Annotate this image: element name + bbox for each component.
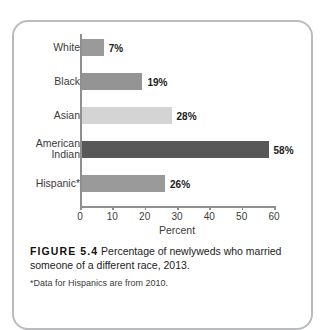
x-axis-title: Percent xyxy=(80,224,274,236)
category-label-asian: Asian xyxy=(0,110,80,121)
x-tick-0 xyxy=(80,206,82,210)
bar-american-indian[interactable] xyxy=(81,141,269,158)
bar-row-asian: 28% xyxy=(81,107,172,124)
bar-row-black: 19% xyxy=(81,73,142,90)
bar-value-american-indian: 58% xyxy=(269,144,294,155)
x-tick-label-30: 30 xyxy=(171,211,182,222)
x-tick-label-60: 60 xyxy=(268,211,279,222)
bar-row-hispanic: 26% xyxy=(81,175,165,192)
bar-value-hispanic: 26% xyxy=(165,178,190,189)
bar-black[interactable] xyxy=(81,73,142,90)
bar-row-white: 7% xyxy=(81,39,104,56)
figure-caption: FIGURE 5.4 Percentage of newlyweds who m… xyxy=(30,244,302,272)
category-label-american-indian: American Indian xyxy=(0,138,80,160)
bar-value-white: 7% xyxy=(104,42,123,53)
bar-hispanic[interactable] xyxy=(81,175,165,192)
x-tick-30 xyxy=(177,206,179,210)
figure-footnote: *Data for Hispanics are from 2010. xyxy=(30,278,302,288)
x-tick-label-20: 20 xyxy=(139,211,150,222)
x-tick-label-40: 40 xyxy=(204,211,215,222)
x-tick-10 xyxy=(112,206,114,210)
category-label-black: Black xyxy=(0,76,80,87)
bar-value-black: 19% xyxy=(142,76,167,87)
bar-chart: White Black Asian American Indian Hispan… xyxy=(14,22,315,234)
bar-value-asian: 28% xyxy=(172,110,197,121)
x-tick-label-50: 50 xyxy=(236,211,247,222)
category-label-white: White xyxy=(0,42,80,53)
figure-card: White Black Asian American Indian Hispan… xyxy=(12,20,313,330)
x-tick-40 xyxy=(209,206,211,210)
x-tick-20 xyxy=(145,206,147,210)
bar-asian[interactable] xyxy=(81,107,172,124)
bar-row-american-indian: 58% xyxy=(81,141,269,158)
figure-number: FIGURE 5.4 xyxy=(30,245,98,257)
y-axis-line xyxy=(80,34,82,206)
category-label-hispanic: Hispanic* xyxy=(0,178,80,189)
x-tick-label-10: 10 xyxy=(107,211,118,222)
x-tick-50 xyxy=(242,206,244,210)
x-tick-60 xyxy=(274,206,276,210)
x-tick-label-0: 0 xyxy=(77,211,83,222)
bar-white[interactable] xyxy=(81,39,104,56)
